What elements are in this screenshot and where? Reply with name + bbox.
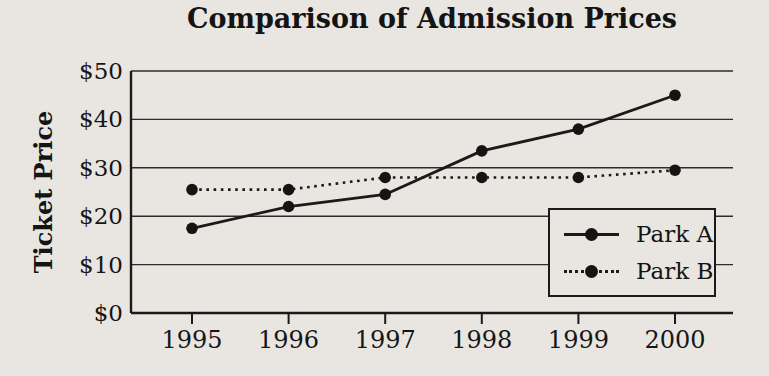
x-tick-label: 2000 xyxy=(644,326,705,354)
data-point-park-a-1995 xyxy=(186,223,198,235)
park-b-marker-dot-icon xyxy=(585,265,598,278)
y-tick-label: $40 xyxy=(79,106,123,132)
park-b-line-sample-icon xyxy=(564,270,619,273)
park-a-line-sample-icon xyxy=(564,233,619,236)
data-point-park-b-1996 xyxy=(283,184,295,196)
plot-area: 199519961997199819992000$0$10$20$30$40$5… xyxy=(0,0,769,376)
x-tick-label: 1999 xyxy=(548,326,609,354)
data-point-park-b-1997 xyxy=(379,172,391,184)
chart-canvas: Comparison of Admission Prices Ticket Pr… xyxy=(0,0,769,376)
legend-label-park-b: Park B xyxy=(636,258,713,284)
x-tick-label: 1997 xyxy=(355,326,416,354)
y-tick-label: $50 xyxy=(79,58,123,84)
data-point-park-b-1999 xyxy=(573,172,585,184)
y-tick-label: $20 xyxy=(79,203,123,229)
data-point-park-a-1999 xyxy=(573,123,585,135)
x-tick-label: 1996 xyxy=(258,326,319,354)
data-point-park-b-1998 xyxy=(476,172,488,184)
legend-item-park-a: Park A xyxy=(564,221,714,247)
data-point-park-a-1996 xyxy=(283,201,295,213)
x-tick-label: 1998 xyxy=(451,326,512,354)
data-point-park-a-1997 xyxy=(379,189,391,201)
legend: Park A Park B xyxy=(548,208,716,297)
data-point-park-b-2000 xyxy=(669,164,681,176)
legend-item-park-b: Park B xyxy=(564,258,714,284)
data-point-park-a-2000 xyxy=(669,89,681,101)
x-tick-label: 1995 xyxy=(161,326,222,354)
y-tick-label: $30 xyxy=(79,155,123,181)
legend-label-park-a: Park A xyxy=(636,221,713,247)
y-tick-label: $10 xyxy=(79,252,123,278)
park-a-marker-dot-icon xyxy=(585,228,598,241)
y-tick-label: $0 xyxy=(94,300,123,326)
data-point-park-a-1998 xyxy=(476,145,488,157)
data-point-park-b-1995 xyxy=(186,184,198,196)
